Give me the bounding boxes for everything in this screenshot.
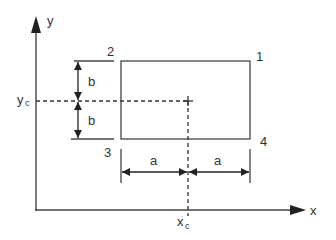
y-axis — [31, 16, 41, 211]
corner-label-4: 4 — [260, 134, 267, 149]
centroid-x-label: x c — [177, 214, 190, 231]
dimension-b-top-label: b — [88, 74, 95, 89]
x-axis-label: x — [310, 203, 317, 218]
svg-text:x: x — [177, 214, 184, 229]
y-axis-label: y — [47, 13, 54, 28]
dimension-a-right-label: a — [214, 153, 222, 168]
svg-text:c: c — [185, 221, 190, 231]
rectangle-section — [121, 61, 250, 139]
y-axis-arrowhead-icon — [31, 16, 41, 33]
centroid-y-label: y c — [17, 92, 30, 108]
svg-text:y: y — [17, 92, 24, 107]
dimension-a-left-label: a — [150, 153, 158, 168]
centroid-cross-icon — [183, 96, 193, 106]
rectangle-centroid-diagram: y x b b a a 1 2 3 4 y c x c — [0, 0, 336, 240]
x-axis — [35, 205, 306, 215]
dimension-b-bottom-label: b — [88, 113, 95, 128]
svg-text:c: c — [25, 98, 30, 108]
corner-label-1: 1 — [256, 49, 263, 64]
corner-label-2: 2 — [107, 44, 114, 59]
corner-label-3: 3 — [104, 145, 111, 160]
x-axis-arrowhead-icon — [290, 205, 306, 215]
